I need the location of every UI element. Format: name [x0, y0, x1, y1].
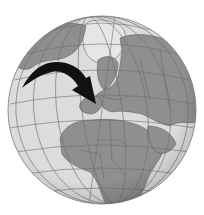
globe-illustration — [0, 0, 204, 215]
madagascar — [161, 185, 166, 196]
globe-shading — [8, 16, 196, 204]
